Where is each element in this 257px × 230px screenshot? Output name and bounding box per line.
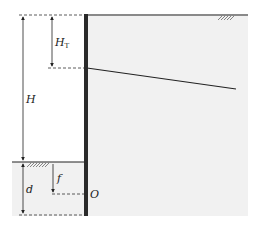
sheet-pile-wall — [84, 14, 88, 216]
sheet-pile-diagram: HT H d f O — [0, 0, 257, 230]
label-d: d — [26, 183, 33, 196]
label-O: O — [90, 188, 99, 201]
label-H: H — [25, 93, 36, 106]
